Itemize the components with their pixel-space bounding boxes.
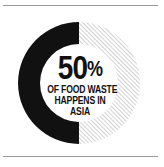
stat-label: 50% OF FOOD WASTE HAPPENS IN ASIA: [40, 50, 120, 117]
stat-value: 50%: [47, 50, 113, 84]
bottom-divider: [3, 156, 158, 157]
caption-line-3: ASIA: [47, 106, 113, 117]
stat-unit: %: [87, 56, 102, 81]
